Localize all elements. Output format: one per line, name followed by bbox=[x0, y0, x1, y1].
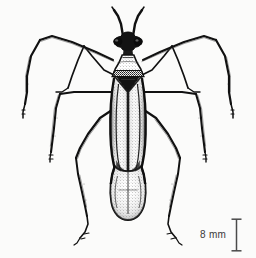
figure-root: 8 mm bbox=[0, 0, 256, 258]
scale-bar: 8 mm bbox=[200, 216, 252, 254]
abdomen bbox=[110, 166, 145, 220]
compound-eye-right bbox=[134, 38, 143, 46]
compound-eye-left bbox=[113, 38, 122, 46]
scale-bar-label: 8 mm bbox=[200, 230, 230, 240]
scale-bar-ibeam-icon bbox=[230, 218, 243, 252]
